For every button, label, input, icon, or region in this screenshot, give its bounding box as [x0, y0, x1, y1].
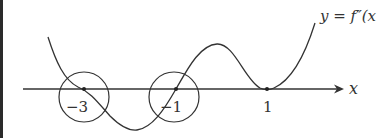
point-minus-3	[82, 87, 86, 91]
graph: x −3 −1 1 y = f″(x	[0, 0, 380, 138]
tick-label-minus-3: −3	[66, 98, 88, 116]
point-1	[265, 87, 269, 91]
tick-label-minus-1: −1	[160, 98, 182, 116]
point-minus-1	[174, 87, 178, 91]
x-axis-label: x	[349, 79, 358, 98]
curve-label: y = f″(x	[319, 7, 377, 25]
tick-label-1: 1	[263, 98, 273, 116]
